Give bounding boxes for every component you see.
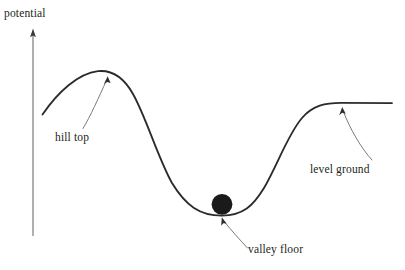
valley-floor-leader [221,217,247,248]
hill-top-leader-line [83,81,106,129]
level-ground-leader [339,107,372,160]
hill-top-leader [83,76,111,128]
potential-axis [30,29,36,237]
ball [212,194,233,215]
valley-floor-arrow-icon [221,217,226,226]
axis-label-potential: potential [4,7,46,19]
annotation-label-valley-floor: valley floor [248,243,303,255]
potential-energy-diagram: potential hill top valley floor level gr… [0,0,405,270]
annotation-label-hill-top: hill top [55,131,89,143]
valley-floor-leader-line [224,222,247,249]
potential-energy-curve [43,71,393,216]
level-ground-leader-line [343,112,372,161]
annotation-label-level-ground: level ground [310,163,370,175]
hill-top-arrow-icon [104,76,111,84]
